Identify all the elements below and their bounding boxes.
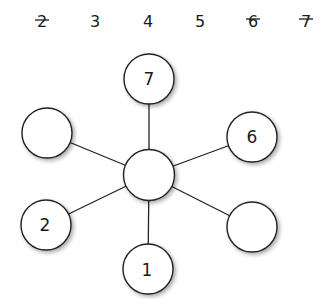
number-4: 4 bbox=[143, 12, 153, 31]
star-diagram: 2 3 4 5 6 7 7 6 2 1 bbox=[0, 0, 320, 299]
node-bottom-label: 1 bbox=[142, 260, 153, 280]
node-center[interactable] bbox=[124, 150, 175, 201]
node-top-label: 7 bbox=[144, 69, 155, 89]
node-upper-right-label: 6 bbox=[247, 127, 258, 147]
number-7: 7 bbox=[301, 12, 311, 31]
number-6: 6 bbox=[248, 12, 258, 31]
number-3: 3 bbox=[90, 12, 100, 31]
node-lower-right[interactable] bbox=[227, 202, 277, 252]
node-upper-left[interactable] bbox=[22, 108, 72, 158]
number-row: 2 3 4 5 6 7 bbox=[35, 12, 313, 31]
number-5: 5 bbox=[195, 12, 205, 31]
number-2: 2 bbox=[37, 12, 47, 31]
node-lower-left-label: 2 bbox=[40, 215, 51, 235]
